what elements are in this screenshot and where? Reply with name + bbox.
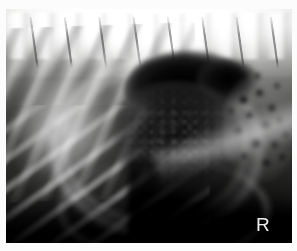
gas-bubble <box>278 154 286 161</box>
focal-nodular-opacity <box>32 119 66 153</box>
central-soft-tissue-mass <box>114 81 242 197</box>
serosal-margin-inner <box>62 69 248 225</box>
ventral-abdominal-arc <box>58 159 270 243</box>
gas-filled-viscus-secondary <box>196 59 258 101</box>
laterality-marker-r: R <box>256 215 270 234</box>
gas-bubble <box>255 89 264 97</box>
bowel-gas-cluster <box>222 75 292 183</box>
gas-bubble <box>268 104 276 113</box>
soft-tissue-background <box>6 9 292 243</box>
gas-filled-viscus <box>124 51 249 117</box>
vignette-overlay <box>6 9 292 243</box>
gas-bubble <box>240 152 248 160</box>
dorsal-spinous-processes <box>16 17 281 69</box>
radiographic-image-field[interactable]: R <box>6 9 292 243</box>
gas-bubble <box>276 117 283 124</box>
gas-bubble <box>270 140 279 149</box>
dorsal-ribs <box>6 21 201 203</box>
thoracolumbar-spine <box>6 9 292 77</box>
gas-bubble <box>246 112 253 119</box>
gas-bubble <box>282 131 289 138</box>
film-grain <box>6 9 292 243</box>
ventral-ribs <box>6 105 210 243</box>
gas-bubble <box>228 108 234 114</box>
mass-internal-texture <box>118 87 236 193</box>
gas-bubble <box>234 127 243 135</box>
gas-bubble <box>261 121 271 130</box>
radiograph-viewer[interactable]: R <box>0 0 297 251</box>
inferior-collimation-shadow <box>6 195 292 243</box>
serosal-margin <box>50 57 264 239</box>
ventral-body-wall <box>149 93 292 188</box>
gas-bubble <box>262 159 271 167</box>
vertebral-bodies <box>6 13 292 59</box>
gas-bubble <box>254 73 261 79</box>
gas-bubble <box>238 95 249 105</box>
cranial-soft-tissue-opacity <box>12 75 120 203</box>
gas-bubble <box>250 138 262 149</box>
gas-bubble <box>274 83 280 89</box>
